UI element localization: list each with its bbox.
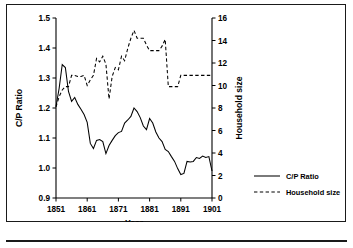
right-axis-tick-label: 2 — [218, 172, 223, 181]
x-axis-tick-label: 1891 — [172, 205, 191, 214]
right-axis-tick-label: 12 — [218, 59, 228, 68]
x-axis-tick-label: 1851 — [47, 205, 66, 214]
left-axis-tick-label: 1.2 — [39, 104, 51, 113]
left-axis-tick-label: 0.9 — [39, 194, 51, 203]
left-axis-tick-label: 1.5 — [39, 14, 51, 23]
legend-label: Household size — [286, 188, 340, 197]
series-line-household-size — [56, 30, 212, 107]
left-axis-tick-label: 1.0 — [39, 164, 51, 173]
line-chart: 0.91.01.11.21.31.41.50246810121416185118… — [6, 4, 346, 222]
right-axis-tick-label: 8 — [218, 104, 223, 113]
y2-axis-title: Household size — [234, 76, 244, 139]
series-line-c-p-ratio — [56, 65, 212, 175]
right-axis-tick-label: 6 — [218, 127, 223, 136]
y-axis-title: C/P Ratio — [14, 89, 24, 127]
legend-label: C/P Ratio — [286, 172, 319, 181]
x-axis-title: Year — [125, 218, 144, 222]
figure-container: 0.91.01.11.21.31.41.50246810121416185118… — [0, 0, 353, 248]
left-axis-tick-label: 1.3 — [39, 74, 51, 83]
left-axis-tick-label: 1.1 — [39, 134, 51, 143]
bottom-horizontal-rule — [6, 240, 347, 242]
x-axis-tick-label: 1901 — [203, 205, 222, 214]
right-axis-tick-label: 0 — [218, 194, 223, 203]
x-axis-tick-label: 1861 — [78, 205, 97, 214]
left-axis-tick-label: 1.4 — [39, 44, 51, 53]
x-axis-tick-label: 1871 — [109, 205, 128, 214]
right-axis-tick-label: 4 — [218, 149, 223, 158]
right-axis-tick-label: 14 — [218, 37, 228, 46]
x-axis-tick-label: 1881 — [140, 205, 159, 214]
right-axis-tick-label: 16 — [218, 14, 228, 23]
right-axis-tick-label: 10 — [218, 82, 228, 91]
